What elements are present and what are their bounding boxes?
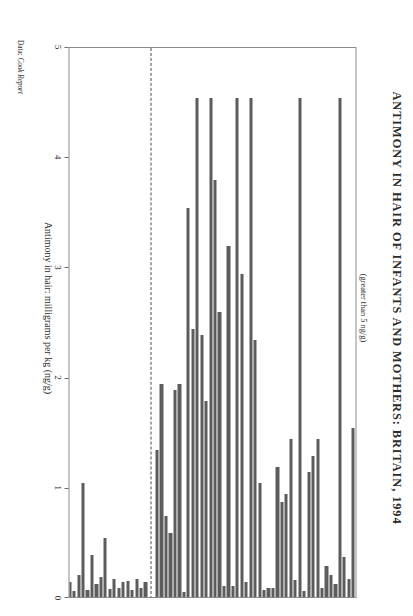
bar-infant — [213, 180, 216, 598]
bar-infant — [235, 98, 238, 598]
bar-infant — [284, 494, 287, 598]
bar-infant — [186, 208, 189, 598]
bar-infant — [173, 390, 176, 598]
bar-infant — [351, 428, 354, 598]
bar-infant — [182, 592, 185, 598]
bar-infant — [320, 588, 323, 598]
bar-mother — [121, 582, 124, 598]
axis-tick — [64, 597, 68, 598]
bar-infant — [338, 98, 341, 598]
bar-mother — [103, 538, 106, 598]
bar-mother — [117, 588, 120, 598]
axis-label: Antimony in hair: milligrams per kg (ng/… — [42, 0, 53, 616]
chart-subtitle: (greater than 5 ng/g) — [358, 0, 367, 616]
bar-infant — [266, 588, 269, 598]
bar-mother — [139, 588, 142, 598]
bar-infant — [195, 98, 198, 598]
bar-infant — [316, 439, 319, 598]
bar-infant — [271, 588, 274, 598]
bar-mother — [130, 590, 133, 598]
bar-infant — [275, 467, 278, 598]
chart-title: ANTIMONY IN HAIR OF INFANTS AND MOTHERS:… — [388, 0, 403, 616]
bar-infant — [209, 98, 212, 598]
bar-infant — [226, 246, 229, 598]
bar-mother — [108, 589, 111, 598]
axis-tick-label: 1 — [52, 486, 62, 491]
axis-tick — [64, 488, 68, 489]
axis-tick-label: 0 — [52, 596, 62, 601]
bar-infant — [302, 591, 305, 598]
bar-infant — [231, 586, 234, 598]
bar-infant — [347, 579, 350, 598]
bar-infant — [249, 98, 252, 598]
bar-infant — [293, 580, 296, 598]
bar-infant — [217, 312, 220, 598]
bar-infant — [324, 566, 327, 598]
bar-infant — [280, 502, 283, 598]
bar-infant — [329, 575, 332, 598]
axis-tick-label: 3 — [52, 265, 62, 270]
bar-infant — [168, 533, 171, 598]
axis-tick — [64, 47, 68, 48]
bar-mother — [112, 579, 115, 598]
bar-infant — [333, 584, 336, 598]
source-prefix: Data: — [15, 40, 23, 56]
bar-infant — [155, 450, 158, 598]
bar-infant — [253, 340, 256, 598]
bar-mother — [126, 581, 129, 598]
bar-infant — [262, 590, 265, 598]
axis-tick — [64, 378, 68, 379]
bar-mother — [81, 483, 84, 598]
axis-tick-label: 2 — [52, 375, 62, 380]
bar-mother — [77, 575, 80, 598]
bar-mother — [143, 582, 146, 598]
bar-infant — [342, 557, 345, 598]
bar-infant — [311, 456, 314, 598]
bar-infant — [289, 439, 292, 598]
rotated-chart-figure: ANTIMONY IN HAIR OF INFANTS AND MOTHERS:… — [0, 0, 413, 616]
axis-tick — [64, 157, 68, 158]
bar-mother — [85, 590, 88, 598]
bar-infant — [164, 516, 167, 598]
bar-infant — [307, 472, 310, 598]
source-name: Cook Report — [15, 57, 23, 94]
bar-infant — [177, 384, 180, 598]
bar-infant — [298, 98, 301, 598]
bar-infant — [191, 329, 194, 598]
bar-mother — [94, 584, 97, 598]
plot-area — [68, 47, 356, 598]
bar-infant — [240, 274, 243, 598]
bar-infant — [244, 582, 247, 598]
bar-mother — [135, 579, 138, 598]
bar-infant — [222, 586, 225, 598]
bar-mother — [72, 591, 75, 598]
source-note: Data: Cook Report — [15, 40, 23, 94]
group-separator-line — [150, 48, 151, 598]
bar-infant — [200, 335, 203, 598]
bar-infant — [258, 483, 261, 598]
axis-tick — [64, 267, 68, 268]
bar-infant — [159, 384, 162, 598]
axis-tick-label: 5 — [52, 45, 62, 50]
bar-mother — [99, 577, 102, 598]
axis-tick-label: 4 — [52, 155, 62, 160]
bar-infant — [204, 401, 207, 598]
bar-mother — [90, 555, 93, 598]
